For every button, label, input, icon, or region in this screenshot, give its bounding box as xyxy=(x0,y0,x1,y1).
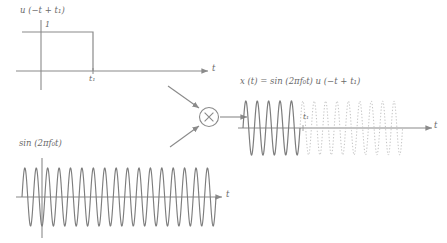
step-x-axis-label: t xyxy=(212,63,215,73)
unit-step-plot xyxy=(16,20,208,90)
sine-signal-label: sin (2πf₀t) xyxy=(19,138,62,148)
step-tick-label: t₁ xyxy=(89,74,95,83)
figure-svg xyxy=(0,0,447,243)
step-amplitude-label: 1 xyxy=(45,20,50,29)
step-curve xyxy=(22,32,93,71)
figure-canvas: u (−t + t₁) 1 t₁ t sin (2πf₀t) t x (t) =… xyxy=(0,0,447,243)
product-x-axis-label: t xyxy=(434,120,437,130)
product-tick-label: t₁ xyxy=(303,112,309,121)
multiplier-block xyxy=(168,86,247,147)
sine-curve xyxy=(22,168,216,226)
step-signal-label: u (−t + t₁) xyxy=(20,5,65,15)
multiplier-input-bottom xyxy=(170,126,199,147)
sine-x-axis-label: t xyxy=(226,189,229,199)
sine-plot xyxy=(16,158,222,238)
multiplier-input-top xyxy=(168,86,199,108)
product-signal-label: x (t) = sin (2πf₀t) u (−t + t₁) xyxy=(240,76,360,86)
product-plot xyxy=(238,101,432,155)
